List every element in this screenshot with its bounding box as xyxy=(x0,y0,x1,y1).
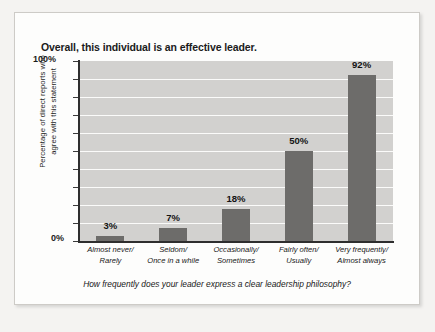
x-axis-tick-label-line: Once in a while xyxy=(142,256,205,267)
bar-value-label: 3% xyxy=(104,220,118,231)
x-axis-tick-label-line: Almost never/ xyxy=(79,245,142,256)
bar[interactable] xyxy=(348,75,376,241)
x-axis-tick-labels: Almost never/ Rarely Seldom/ Once in a w… xyxy=(79,245,393,266)
bar[interactable] xyxy=(285,151,313,241)
y-axis-title: Percentage of direct reports who agree w… xyxy=(38,32,59,192)
y-axis-tick xyxy=(73,151,78,152)
y-axis-tick xyxy=(73,169,78,170)
x-axis-tick-label-line: Sometimes xyxy=(205,256,268,267)
x-axis-tick-label: Seldom/ Once in a while xyxy=(142,245,205,266)
y-axis-tick xyxy=(73,97,78,98)
x-axis-tick-label: Fairly often/ Usually xyxy=(267,245,330,266)
y-axis-title-line1: Percentage of direct reports who xyxy=(38,32,49,192)
y-axis-tick xyxy=(73,223,78,224)
chart-card: Overall, this individual is an effective… xyxy=(14,12,420,305)
y-axis-tick xyxy=(73,115,78,116)
y-axis-tick xyxy=(73,79,78,80)
x-axis-tick-label: Occasionally/ Sometimes xyxy=(205,245,268,266)
x-axis-tick-label: Almost never/ Rarely xyxy=(79,245,142,266)
bar-slot: 18% xyxy=(205,61,268,241)
plot-area: 3% 7% 18% 50% 92% xyxy=(79,61,393,241)
y-axis-tick-label-max: 100% xyxy=(33,54,419,64)
bar-slot: 92% xyxy=(330,61,393,241)
y-axis-line xyxy=(78,60,80,242)
bar-value-label: 18% xyxy=(226,193,245,204)
bar-value-label: 7% xyxy=(166,212,180,223)
y-axis-tick xyxy=(73,187,78,188)
x-axis-tick-label-line: Almost always xyxy=(330,256,393,267)
bar-value-label: 50% xyxy=(289,135,308,146)
y-axis-tick-label-min: 0% xyxy=(51,233,419,243)
x-axis-tick-label-line: Usually xyxy=(267,256,330,267)
x-axis-tick-label-line: Seldom/ xyxy=(142,245,205,256)
x-axis-tick-label-line: Rarely xyxy=(79,256,142,267)
bar-slot: 50% xyxy=(267,61,330,241)
y-axis-title-line2: agree with this statement xyxy=(48,32,59,192)
bar-series: 3% 7% 18% 50% 92% xyxy=(79,61,393,241)
bar-slot: 3% xyxy=(79,61,142,241)
y-axis-tick xyxy=(73,205,78,206)
bar-slot: 7% xyxy=(142,61,205,241)
chart-screenshot: Overall, this individual is an effective… xyxy=(0,0,435,332)
x-axis-tick-label-line: Occasionally/ xyxy=(205,245,268,256)
x-axis-tick-label-line: Very frequently/ xyxy=(330,245,393,256)
y-axis-tick xyxy=(73,133,78,134)
x-axis-tick-label: Very frequently/ Almost always xyxy=(330,245,393,266)
x-axis-tick-label-line: Fairly often/ xyxy=(267,245,330,256)
chart-title: Overall, this individual is an effective… xyxy=(41,41,257,53)
x-axis-title: How frequently does your leader express … xyxy=(15,279,419,289)
